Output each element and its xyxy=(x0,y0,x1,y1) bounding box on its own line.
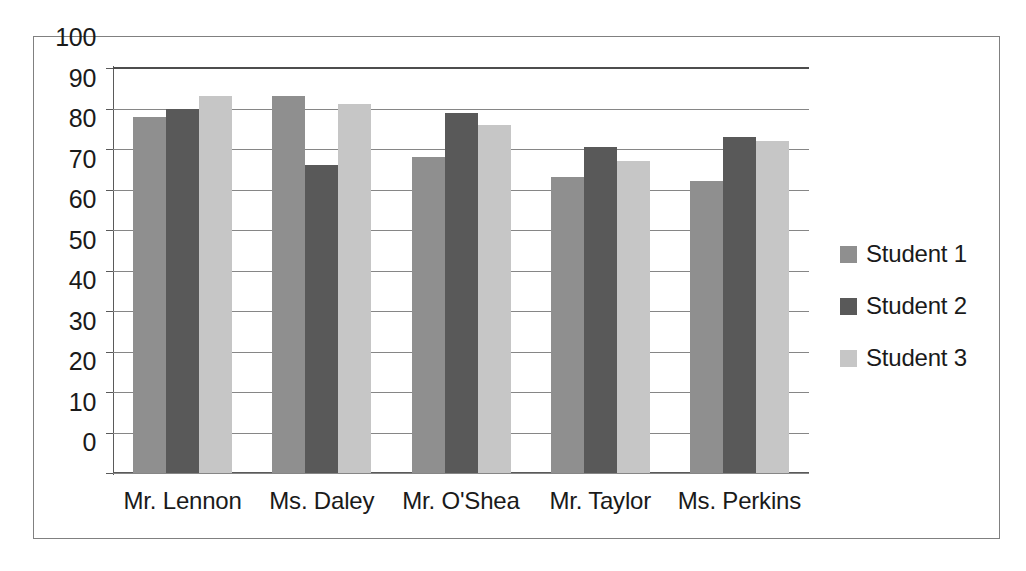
y-axis-tick-label: 60 xyxy=(69,185,96,214)
legend-swatch-icon xyxy=(840,246,857,263)
legend-item-label: Student 2 xyxy=(866,292,967,320)
bar-group xyxy=(551,68,650,473)
bar[interactable] xyxy=(199,96,232,473)
bar-group xyxy=(272,68,371,473)
y-axis-tick xyxy=(106,109,113,110)
legend-item-label: Student 1 xyxy=(866,240,967,268)
bar-group xyxy=(690,68,789,473)
y-axis-tick xyxy=(106,68,113,69)
bar[interactable] xyxy=(617,161,650,473)
y-axis-tick-label: 50 xyxy=(69,225,96,254)
y-axis-tick-label: 10 xyxy=(69,387,96,416)
bar[interactable] xyxy=(133,117,166,473)
y-axis-tick xyxy=(106,392,113,393)
y-axis-tick-label: 90 xyxy=(69,63,96,92)
legend-item-label: Student 3 xyxy=(866,344,967,372)
x-axis-tick-label: Mr. Lennon xyxy=(113,487,252,515)
y-axis-tick-label: 40 xyxy=(69,266,96,295)
plot-area xyxy=(113,68,809,473)
legend-swatch-icon xyxy=(840,298,857,315)
y-axis-tick-label: 30 xyxy=(69,306,96,335)
bar[interactable] xyxy=(756,141,789,473)
bar[interactable] xyxy=(690,181,723,473)
x-axis-tick-label: Ms. Perkins xyxy=(670,487,809,515)
y-axis-tick xyxy=(106,190,113,191)
legend-item[interactable]: Student 2 xyxy=(840,280,990,332)
bar[interactable] xyxy=(272,96,305,473)
bar[interactable] xyxy=(412,157,445,473)
gridline xyxy=(113,473,809,474)
y-axis-tick xyxy=(106,311,113,312)
bar[interactable] xyxy=(723,137,756,473)
y-axis-tick-label: 70 xyxy=(69,144,96,173)
bar[interactable] xyxy=(584,147,617,473)
bar[interactable] xyxy=(166,109,199,474)
y-axis-tick-label: 0 xyxy=(82,428,96,457)
chart-frame: 0102030405060708090100 Mr. LennonMs. Dal… xyxy=(33,36,1000,539)
bar[interactable] xyxy=(445,113,478,473)
y-axis-tick-label: 20 xyxy=(69,347,96,376)
bar[interactable] xyxy=(551,177,584,473)
legend-swatch-icon xyxy=(840,350,857,367)
bar-group xyxy=(412,68,511,473)
bar[interactable] xyxy=(305,165,338,473)
y-axis-tick-label: 100 xyxy=(55,23,96,52)
x-axis-tick-label: Mr. Taylor xyxy=(531,487,670,515)
bar[interactable] xyxy=(478,125,511,473)
y-axis-tick xyxy=(106,149,113,150)
y-axis-tick xyxy=(106,230,113,231)
y-axis-tick xyxy=(106,352,113,353)
y-axis-tick xyxy=(106,473,113,474)
y-axis-tick xyxy=(106,433,113,434)
y-axis-tick-labels: 0102030405060708090100 xyxy=(26,37,96,442)
y-axis-tick-label: 80 xyxy=(69,104,96,133)
x-axis-tick-label: Ms. Daley xyxy=(252,487,391,515)
bar-group xyxy=(133,68,232,473)
chart-legend: Student 1Student 2Student 3 xyxy=(840,228,990,384)
legend-item[interactable]: Student 1 xyxy=(840,228,990,280)
bar[interactable] xyxy=(338,104,371,473)
y-axis-tick xyxy=(106,271,113,272)
legend-item[interactable]: Student 3 xyxy=(840,332,990,384)
x-axis-tick-label: Mr. O'Shea xyxy=(391,487,530,515)
